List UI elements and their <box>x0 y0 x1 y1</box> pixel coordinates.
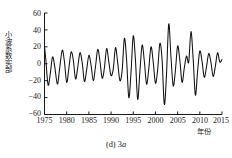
wavelet-real-part-line <box>45 24 223 105</box>
figure-caption: (d) 3a <box>0 140 232 150</box>
y-tick-40: 40 <box>17 27 41 35</box>
axis-frame <box>45 13 223 115</box>
y-tick-neg40: −40 <box>17 93 41 101</box>
y-tick-20: 20 <box>17 43 41 51</box>
y-axis-label: 小波系数实部 <box>1 8 14 94</box>
y-tick-neg20: −20 <box>17 77 41 85</box>
caption-unit: a <box>122 140 126 149</box>
y-tick-60: 60 <box>17 10 41 18</box>
caption-prefix: (d) <box>106 140 116 149</box>
y-axis-tick-group: 60 40 20 0 −20 −40 −60 <box>14 0 41 158</box>
x-tick-2015: 2015 <box>206 116 232 125</box>
x-axis-label: 年份 <box>197 128 211 136</box>
figure-wrapper: 小波系数实部 60 40 20 0 −20 −40 −60 1975 1980 … <box>0 0 232 158</box>
y-tick-0: 0 <box>17 60 41 68</box>
